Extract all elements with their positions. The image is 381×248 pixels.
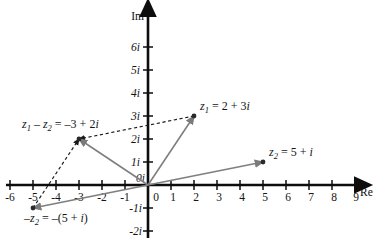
x-tick-label: 8 xyxy=(331,191,337,203)
point-neg-z2 xyxy=(31,206,36,211)
x-tick-label: -5 xyxy=(28,191,38,203)
x-tick-label: -4 xyxy=(51,191,61,203)
point-difference xyxy=(77,137,82,142)
x-tick-label-origin: 0 xyxy=(153,191,159,203)
annotation-difference: z1 – z2 = –3 + 2i xyxy=(21,117,99,133)
y-tick-label: 1i xyxy=(131,156,140,168)
x-tick-label: -6 xyxy=(5,191,15,203)
y-tick-label: 2i xyxy=(131,133,140,145)
x-tick-label: 4 xyxy=(239,191,245,203)
real-axis-label: Re xyxy=(360,186,373,198)
y-tick-label: 5i xyxy=(131,64,140,76)
annotation-neg-z2-text: –z₂ = –(5 + i) xyxy=(0,0,86,4)
vector-z2 xyxy=(148,162,263,185)
x-tick-label: 6 xyxy=(285,191,291,203)
x-tick-label: 2 xyxy=(193,191,199,203)
annotation-z2: z2 = 5 + i xyxy=(268,145,313,161)
vector-z1 xyxy=(148,116,194,185)
x-tick-label: 3 xyxy=(216,191,222,203)
point-z2 xyxy=(261,160,266,165)
point-z1 xyxy=(192,114,197,119)
annotation-neg-z2: –z2 = –(5 + i) xyxy=(23,211,88,227)
y-tick-label: 3i xyxy=(130,110,140,122)
annotation-z1: z1 = 2 + 3i xyxy=(199,99,250,115)
x-tick-label: 1 xyxy=(170,191,176,203)
x-tick-label: -3 xyxy=(74,191,84,203)
imaginary-axis-label: Im xyxy=(131,10,144,22)
y-tick-label: -1i xyxy=(129,202,142,214)
y-tick-label: -2i xyxy=(129,225,142,237)
complex-plane-svg: -6 -5 -4 -3 -2 -1 0 1 2 3 4 5 6 7 8 9 6i… xyxy=(0,0,381,248)
x-tick-label: 5 xyxy=(262,191,268,203)
imaginary-axis-tick-labels: 6i 5i 4i 3i 2i 1i 0i -1i -2i xyxy=(129,41,145,237)
y-tick-label: 6i xyxy=(131,41,140,53)
real-axis-tick-labels: -6 -5 -4 -3 -2 -1 0 1 2 3 4 5 6 7 8 9 xyxy=(5,191,359,203)
y-tick-label: 4i xyxy=(131,87,140,99)
complex-plane-figure: -6 -5 -4 -3 -2 -1 0 1 2 3 4 5 6 7 8 9 6i… xyxy=(0,0,381,248)
x-tick-label: 7 xyxy=(308,191,314,203)
x-tick-label: 9 xyxy=(353,191,359,203)
